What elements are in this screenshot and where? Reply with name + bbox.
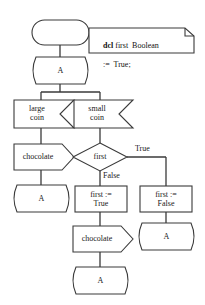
sdl-flowchart-canvas: dcl first Boolean := True; A large coin …	[0, 0, 205, 305]
connector-symbol-bottom	[73, 267, 128, 294]
input-symbol-small-coin	[74, 100, 133, 128]
task-symbol-set-first-true	[75, 186, 127, 212]
declaration-line2: := True;	[103, 60, 131, 69]
decision-symbol-first	[73, 143, 127, 171]
start-symbol	[32, 20, 89, 45]
connector-symbol-right	[139, 223, 194, 250]
edge-label-false: False	[103, 171, 120, 180]
edge-label-true: True	[135, 144, 150, 153]
declaration-keyword: dcl	[103, 41, 113, 50]
output-symbol-chocolate-bottom	[73, 226, 133, 252]
connector-symbol-left	[14, 185, 69, 212]
output-symbol-chocolate-left	[14, 144, 74, 170]
declaration-note-text: dcl first Boolean := True;	[95, 31, 190, 79]
declaration-line1-rest: first Boolean	[113, 41, 159, 50]
connector-symbol-top	[33, 57, 88, 84]
task-symbol-set-first-false	[140, 186, 192, 212]
input-symbol-large-coin	[14, 100, 74, 128]
